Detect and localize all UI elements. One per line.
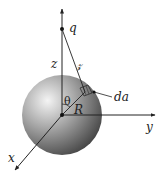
label-q: q <box>69 22 77 34</box>
origin-point <box>60 113 64 117</box>
label-script-z: 𝓏 <box>77 59 82 70</box>
label-da: da <box>114 91 129 103</box>
da-leader-dot <box>92 90 95 93</box>
sphere-diagram <box>0 0 164 176</box>
label-R: R <box>74 104 83 116</box>
label-theta: θ <box>64 96 71 107</box>
label-x: x <box>8 152 15 164</box>
label-z: z <box>51 58 57 70</box>
label-y: y <box>146 121 153 133</box>
